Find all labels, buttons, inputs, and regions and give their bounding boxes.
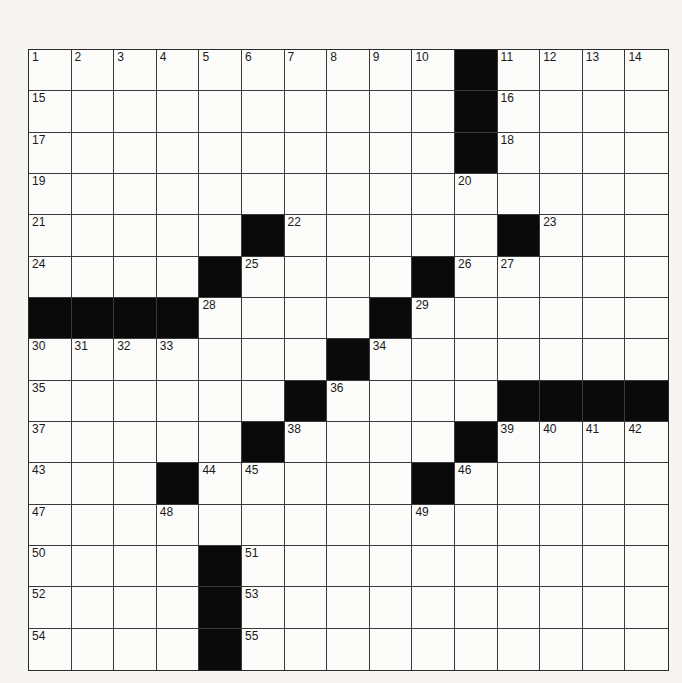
grid-cell[interactable]: 13	[583, 50, 626, 91]
grid-cell[interactable]	[157, 174, 200, 215]
grid-cell[interactable]: 53	[242, 587, 285, 628]
grid-cell[interactable]	[625, 298, 668, 339]
grid-cell[interactable]	[540, 587, 583, 628]
grid-cell[interactable]	[583, 629, 626, 670]
grid-cell[interactable]	[157, 587, 200, 628]
grid-cell[interactable]	[114, 133, 157, 174]
grid-cell[interactable]	[498, 174, 541, 215]
grid-cell[interactable]	[455, 339, 498, 380]
grid-cell[interactable]: 7	[285, 50, 328, 91]
grid-cell[interactable]	[199, 422, 242, 463]
grid-cell[interactable]	[455, 381, 498, 422]
grid-cell[interactable]: 40	[540, 422, 583, 463]
grid-cell[interactable]	[370, 91, 413, 132]
grid-cell[interactable]	[114, 629, 157, 670]
grid-cell[interactable]	[625, 133, 668, 174]
grid-cell[interactable]	[157, 546, 200, 587]
grid-cell[interactable]: 37	[29, 422, 72, 463]
grid-cell[interactable]	[540, 133, 583, 174]
grid-cell[interactable]	[625, 546, 668, 587]
grid-cell[interactable]	[72, 422, 115, 463]
grid-cell[interactable]	[114, 174, 157, 215]
grid-cell[interactable]	[625, 505, 668, 546]
grid-cell[interactable]	[72, 629, 115, 670]
grid-cell[interactable]	[455, 215, 498, 256]
grid-cell[interactable]	[412, 629, 455, 670]
grid-cell[interactable]	[498, 298, 541, 339]
grid-cell[interactable]	[327, 505, 370, 546]
grid-cell[interactable]: 11	[498, 50, 541, 91]
grid-cell[interactable]	[327, 422, 370, 463]
grid-cell[interactable]	[455, 546, 498, 587]
grid-cell[interactable]: 31	[72, 339, 115, 380]
grid-cell[interactable]	[498, 463, 541, 504]
grid-cell[interactable]	[498, 546, 541, 587]
grid-cell[interactable]	[285, 298, 328, 339]
grid-cell[interactable]	[72, 505, 115, 546]
grid-cell[interactable]	[412, 381, 455, 422]
grid-cell[interactable]	[370, 629, 413, 670]
grid-cell[interactable]	[327, 257, 370, 298]
grid-cell[interactable]	[370, 381, 413, 422]
grid-cell[interactable]	[370, 422, 413, 463]
grid-cell[interactable]	[285, 629, 328, 670]
grid-cell[interactable]	[327, 629, 370, 670]
grid-cell[interactable]	[455, 629, 498, 670]
grid-cell[interactable]: 50	[29, 546, 72, 587]
grid-cell[interactable]: 45	[242, 463, 285, 504]
grid-cell[interactable]	[583, 257, 626, 298]
grid-cell[interactable]	[72, 133, 115, 174]
grid-cell[interactable]: 49	[412, 505, 455, 546]
grid-cell[interactable]: 1	[29, 50, 72, 91]
grid-cell[interactable]	[157, 381, 200, 422]
grid-cell[interactable]	[370, 257, 413, 298]
grid-cell[interactable]: 2	[72, 50, 115, 91]
grid-cell[interactable]	[583, 546, 626, 587]
grid-cell[interactable]: 3	[114, 50, 157, 91]
grid-cell[interactable]	[540, 463, 583, 504]
grid-cell[interactable]	[370, 505, 413, 546]
grid-cell[interactable]: 51	[242, 546, 285, 587]
grid-cell[interactable]: 35	[29, 381, 72, 422]
grid-cell[interactable]	[72, 546, 115, 587]
grid-cell[interactable]	[412, 133, 455, 174]
grid-cell[interactable]	[327, 463, 370, 504]
grid-cell[interactable]: 25	[242, 257, 285, 298]
grid-cell[interactable]	[583, 587, 626, 628]
grid-cell[interactable]	[285, 133, 328, 174]
grid-cell[interactable]: 22	[285, 215, 328, 256]
grid-cell[interactable]	[199, 381, 242, 422]
grid-cell[interactable]	[157, 91, 200, 132]
grid-cell[interactable]	[455, 505, 498, 546]
grid-cell[interactable]: 29	[412, 298, 455, 339]
grid-cell[interactable]	[285, 91, 328, 132]
grid-cell[interactable]	[285, 463, 328, 504]
grid-cell[interactable]	[327, 174, 370, 215]
grid-cell[interactable]: 14	[625, 50, 668, 91]
grid-cell[interactable]	[242, 298, 285, 339]
grid-cell[interactable]: 43	[29, 463, 72, 504]
grid-cell[interactable]	[199, 91, 242, 132]
grid-cell[interactable]	[412, 215, 455, 256]
grid-cell[interactable]	[540, 91, 583, 132]
grid-cell[interactable]	[540, 505, 583, 546]
grid-cell[interactable]: 52	[29, 587, 72, 628]
grid-cell[interactable]	[412, 339, 455, 380]
grid-cell[interactable]	[327, 298, 370, 339]
grid-cell[interactable]	[625, 174, 668, 215]
grid-cell[interactable]: 8	[327, 50, 370, 91]
grid-cell[interactable]	[72, 587, 115, 628]
grid-cell[interactable]: 48	[157, 505, 200, 546]
grid-cell[interactable]	[540, 546, 583, 587]
grid-cell[interactable]	[583, 91, 626, 132]
grid-cell[interactable]	[242, 91, 285, 132]
grid-cell[interactable]	[157, 215, 200, 256]
grid-cell[interactable]: 27	[498, 257, 541, 298]
grid-cell[interactable]	[370, 463, 413, 504]
grid-cell[interactable]	[583, 174, 626, 215]
grid-cell[interactable]: 36	[327, 381, 370, 422]
grid-cell[interactable]	[625, 587, 668, 628]
grid-cell[interactable]: 46	[455, 463, 498, 504]
grid-cell[interactable]: 33	[157, 339, 200, 380]
grid-cell[interactable]: 34	[370, 339, 413, 380]
